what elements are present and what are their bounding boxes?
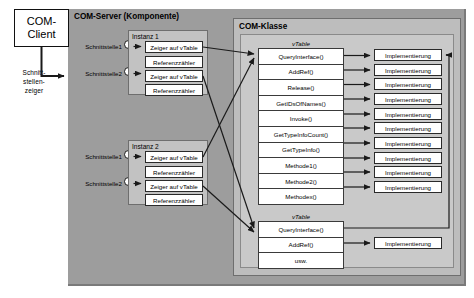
- implementation-box-8: Implementierung: [374, 166, 442, 178]
- vtable-2-box: QueryInterface() AddRef() usw.: [258, 221, 344, 269]
- implementation-box-6: Implementierung: [374, 137, 442, 149]
- pointer-label-line3: zeiger: [10, 87, 58, 96]
- vtable-1-method-9[interactable]: Methodex(): [259, 189, 343, 204]
- implementation-box-5: Implementierung: [374, 122, 442, 134]
- instanz-1-vtable-pointer-2: Zeiger auf vTable: [145, 70, 203, 82]
- implementation-box-9: Implementierung: [374, 181, 442, 193]
- interface-label-4: Schnittstelle2: [68, 180, 122, 187]
- diagram-canvas: COM-Server (Komponente) COM-Klasse COM- …: [0, 0, 474, 298]
- vtable-1-method-4[interactable]: Invoke(): [259, 111, 343, 127]
- com-klasse-title: COM-Klasse: [239, 22, 287, 31]
- vtable-2-method-0[interactable]: QueryInterface(): [259, 222, 343, 238]
- vtable-1-method-6[interactable]: GetTypeInfo(): [259, 143, 343, 159]
- vtable-1-method-7[interactable]: Methode1(): [259, 158, 343, 174]
- interface-label-1: Schnittstelle1: [68, 43, 122, 50]
- instanz-2-vtable-pointer-2: Zeiger auf vTable: [145, 180, 203, 192]
- implementation-box-7: Implementierung: [374, 152, 442, 164]
- implementation-box-1: Implementierung: [374, 64, 442, 76]
- vtable-1-method-3[interactable]: GetIDsOfNames(): [259, 96, 343, 112]
- vtable-2-method-1[interactable]: AddRef(): [259, 238, 343, 254]
- pointer-label-line2: stellen-: [10, 78, 58, 87]
- interface-pointer-label: Schnitt- stellen- zeiger: [10, 69, 58, 95]
- com-client-box: COM- Client: [14, 9, 69, 47]
- implementation-box-2: Implementierung: [374, 78, 442, 90]
- com-client-title-line1: COM-: [27, 15, 56, 28]
- com-server-title: COM-Server (Komponente): [74, 12, 179, 21]
- instanz-2-vtable-pointer-1: Zeiger auf vTable: [145, 151, 203, 163]
- vtable-1-method-8[interactable]: Methode2(): [259, 174, 343, 190]
- pointer-label-line1: Schnitt-: [10, 69, 58, 78]
- instanz-1-refcount-2: Referenzzähler: [145, 84, 203, 96]
- vtable-1-method-5[interactable]: GetTypeInfoCount(): [259, 127, 343, 143]
- vtable-1-box: QueryInterface() AddRef() Release() GetI…: [258, 48, 344, 205]
- vtable-1-label: vTable: [258, 40, 344, 47]
- implementation-box-0: Implementierung: [374, 49, 442, 61]
- interface-label-3: Schnittstelle1: [68, 153, 122, 160]
- vtable-1-method-0[interactable]: QueryInterface(): [259, 49, 343, 65]
- vtable-1-method-1[interactable]: AddRef(): [259, 65, 343, 81]
- instanz-1-vtable-pointer-1: Zeiger auf vTable: [145, 41, 203, 53]
- interface-label-2: Schnittstelle2: [68, 70, 122, 77]
- instanz-2-refcount-2: Referenzzähler: [145, 194, 203, 206]
- instanz-2-title: Instanz 2: [129, 141, 207, 150]
- instanz-1-refcount-1: Referenzzähler: [145, 56, 203, 68]
- com-client-title-line2: Client: [27, 28, 55, 41]
- implementation-box-3: Implementierung: [374, 93, 442, 105]
- implementation-box-10: Implementierung: [374, 237, 442, 249]
- vtable-2-label: vTable: [258, 213, 344, 220]
- implementation-box-4: Implementierung: [374, 108, 442, 120]
- vtable-2-method-2[interactable]: usw.: [259, 253, 343, 268]
- instanz-1-title: Instanz 1: [129, 31, 207, 40]
- vtable-1-method-2[interactable]: Release(): [259, 80, 343, 96]
- instanz-2-refcount-1: Referenzzähler: [145, 166, 203, 178]
